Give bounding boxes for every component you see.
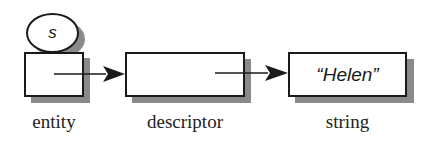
arrow-entity-to-descriptor (54, 66, 125, 82)
arrow-descriptor-to-string (215, 65, 288, 81)
diagram-canvas: s entity descriptor “Helen” string (0, 0, 432, 149)
arrows-layer (0, 0, 432, 149)
